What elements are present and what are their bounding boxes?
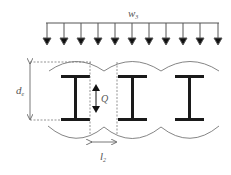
top-arcs [49,62,219,72]
i-beam-1 [61,75,90,121]
spacing-dimension: l2 [91,142,116,163]
distributed-load: w3 [43,7,222,45]
castellated-beam-diagram: w3 de [0,0,231,175]
load-arrows [43,23,222,45]
spacing-label: l2 [100,150,106,163]
depth-dimension: de [16,62,91,120]
shear-arrow: Q [92,84,109,113]
i-beam-2 [118,75,147,121]
load-label: w3 [128,7,138,20]
i-beams [61,75,204,121]
depth-label: de [16,84,25,97]
i-beam-3 [175,75,204,121]
shear-label: Q [101,93,109,104]
bottom-arcs [48,126,219,139]
